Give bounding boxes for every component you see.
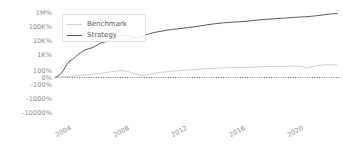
x-axis-tick: 2004 xyxy=(54,124,73,139)
x-axis-tick: 2008 xyxy=(112,124,131,139)
x-axis: 2004 2008 2012 2016 2020 xyxy=(0,0,343,151)
x-axis-tick: 2016 xyxy=(228,124,247,139)
chart-container: 1M% 100K% 10K% 1K% 100% 0% -100% -1000% … xyxy=(0,0,343,151)
x-axis-tick: 2020 xyxy=(286,124,305,139)
x-axis-tick: 2012 xyxy=(170,124,189,139)
